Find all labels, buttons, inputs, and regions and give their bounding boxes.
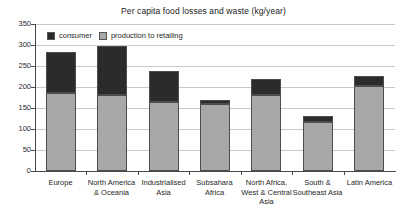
- bar-segment-production: [251, 95, 281, 171]
- bar-segment-production: [149, 102, 179, 171]
- legend-item-production: production to retailing: [99, 31, 183, 40]
- y-tick-label: 350: [5, 20, 31, 28]
- legend-item-consumer: consumer: [47, 31, 92, 40]
- plot-area: [35, 24, 395, 171]
- legend-swatch-production-icon: [99, 32, 107, 40]
- bar-segment-production: [97, 95, 127, 171]
- x-tick-mark: [344, 171, 345, 175]
- bar-segment-consumer: [200, 100, 230, 103]
- chart-legend: consumer production to retailing: [47, 31, 183, 40]
- x-tick-mark: [138, 171, 139, 175]
- x-category-label: South & Southeast Asia: [292, 178, 343, 197]
- x-category-label: Industrialised Asia: [138, 178, 189, 197]
- y-tick-label: 250: [5, 62, 31, 70]
- chart-title: Per capita food losses and waste (kg/yea…: [0, 6, 407, 16]
- bar-segment-consumer: [97, 46, 127, 96]
- x-category-label: Subsahara Africa: [189, 178, 240, 197]
- y-tick-label: 100: [5, 125, 31, 133]
- bar-group: [354, 24, 384, 171]
- y-axis-labels: 350300250200150100500: [0, 0, 31, 215]
- bar-segment-consumer: [303, 116, 333, 121]
- bar-segment-consumer: [251, 79, 281, 95]
- bar-group: [97, 24, 127, 171]
- bar-segment-production: [46, 93, 76, 171]
- bar-group: [149, 24, 179, 171]
- legend-swatch-consumer-icon: [47, 32, 55, 40]
- bar-segment-production: [354, 86, 384, 171]
- x-category-label: North Africa, West & Central Asia: [241, 178, 292, 207]
- legend-label-consumer: consumer: [59, 31, 92, 40]
- x-tick-mark: [189, 171, 190, 175]
- y-tick-label: 200: [5, 83, 31, 91]
- y-tick-label: 50: [5, 146, 31, 154]
- x-tick-mark: [292, 171, 293, 175]
- y-tick-label: 300: [5, 41, 31, 49]
- y-tick-label: 0: [5, 167, 31, 175]
- chart-container: Per capita food losses and waste (kg/yea…: [0, 0, 407, 215]
- bar-group: [303, 24, 333, 171]
- legend-label-production: production to retailing: [111, 31, 183, 40]
- bar-group: [251, 24, 281, 171]
- bar-group: [200, 24, 230, 171]
- x-category-label: Europe: [35, 178, 86, 188]
- x-axis-line: [35, 171, 396, 172]
- bar-segment-production: [303, 122, 333, 171]
- x-category-label: Latin America: [344, 178, 395, 188]
- bar-segment-production: [200, 104, 230, 171]
- y-tick-label: 150: [5, 104, 31, 112]
- bar-segment-consumer: [46, 52, 76, 93]
- bar-segment-consumer: [354, 76, 384, 86]
- x-tick-mark: [241, 171, 242, 175]
- bar-segment-consumer: [149, 71, 179, 102]
- x-category-label: North America & Oceania: [86, 178, 137, 197]
- bar-group: [46, 24, 76, 171]
- x-tick-mark: [86, 171, 87, 175]
